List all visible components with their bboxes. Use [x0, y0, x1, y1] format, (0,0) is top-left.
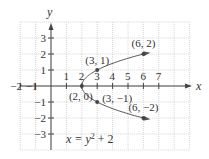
- svg-text:1: 1: [41, 64, 47, 76]
- svg-text:6: 6: [140, 70, 146, 82]
- svg-text:−1: −1: [26, 80, 38, 92]
- y-axis-label: y: [46, 5, 53, 19]
- svg-text:−1: −1: [34, 96, 46, 108]
- svg-text:2: 2: [41, 48, 47, 60]
- svg-text:3: 3: [41, 32, 47, 44]
- svg-text:1: 1: [63, 70, 69, 82]
- svg-text:−2: −2: [34, 112, 46, 124]
- x-axis: −2−11234567: [10, 70, 192, 92]
- svg-text:5: 5: [125, 70, 131, 82]
- svg-text:4: 4: [110, 70, 116, 82]
- svg-text:7: 7: [156, 70, 162, 82]
- svg-text:−2: −2: [10, 80, 22, 92]
- x-axis-label: x: [195, 79, 202, 93]
- svg-text:(2, 0): (2, 0): [69, 90, 93, 103]
- svg-text:−3: −3: [34, 128, 46, 140]
- svg-text:(6, 2): (6, 2): [131, 37, 155, 50]
- svg-text:(3, 1): (3, 1): [85, 54, 109, 67]
- svg-text:(6, −2): (6, −2): [128, 101, 158, 114]
- equation-label: x = y2 + 2: [65, 132, 114, 146]
- parabola-chart: −2−11234567 321−1−2−3 (2, 0)(3, 1)(6, 2)…: [0, 0, 209, 159]
